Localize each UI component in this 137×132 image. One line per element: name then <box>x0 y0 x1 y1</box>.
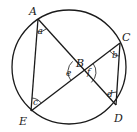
angle-label-d: d <box>107 89 113 99</box>
angle-label-b: b <box>112 50 118 60</box>
point-label-C: C <box>122 31 131 44</box>
angle-label-c: c <box>33 97 38 107</box>
angle-label-f: f <box>86 67 92 77</box>
circle-chord-diagram: A B C D E a b c d e f <box>0 0 137 132</box>
angle-label-e: e <box>66 68 71 78</box>
point-label-A: A <box>28 5 37 18</box>
point-label-E: E <box>18 115 27 128</box>
point-label-D: D <box>113 112 123 125</box>
point-label-B: B <box>75 57 84 70</box>
segment-EC <box>31 43 120 111</box>
angle-label-a: a <box>38 26 43 36</box>
